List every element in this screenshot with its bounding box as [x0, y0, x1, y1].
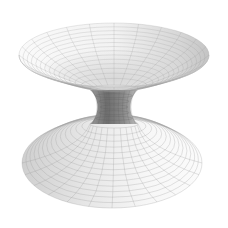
wormhole-surface-svg [0, 0, 228, 228]
bottom-funnel [22, 115, 202, 208]
wormhole-diagram [0, 0, 228, 228]
throat [90, 90, 138, 124]
top-funnel [19, 23, 209, 91]
